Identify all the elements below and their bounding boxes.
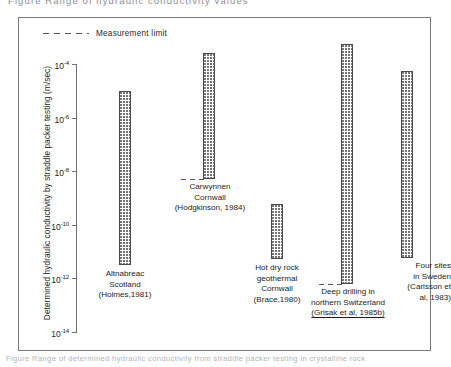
- scan-top-cutoff-text: Figure Range of hydraulic conductivity v…: [0, 0, 450, 9]
- scan-bottom-cutoff-text: Figure Range of determined hydraulic con…: [0, 355, 450, 367]
- measurement-limit-marker-carwynnen: [181, 179, 205, 180]
- y-axis-label: 10-6: [39, 113, 69, 125]
- bar-four-sites-sweden: [401, 71, 413, 258]
- y-axis-tick: [72, 171, 77, 172]
- bar-caption-line: Altnabreac: [77, 269, 173, 280]
- scan-top-cutoff-label: Figure Range of hydraulic conductivity v…: [8, 0, 249, 6]
- y-axis-title: Determined hydraulic conductivity by str…: [42, 61, 52, 325]
- bar-caption-carwynnen-cornwall: Carwynnen Cornwall (Hodgkinson, 1984): [155, 182, 265, 214]
- bar-caption-line: in Sweden: [363, 272, 451, 283]
- bar-caption-line: Four sites: [363, 261, 451, 272]
- y-axis-label: 10-12: [39, 273, 69, 285]
- bar-caption-line: Carwynnen: [155, 182, 265, 193]
- y-axis-exponent: -14: [61, 327, 69, 334]
- bar-caption-line: (Holmes,1981): [77, 290, 173, 301]
- y-axis-label: 10-10: [39, 220, 69, 232]
- measurement-limit-marker-deep-drilling: [319, 284, 343, 285]
- bar-caption-line: Hot dry rock: [231, 263, 323, 274]
- y-axis-exponent: -10: [61, 220, 69, 227]
- bar-caption-line: geothermal: [231, 274, 323, 285]
- scan-bottom-cutoff-label: Figure Range of determined hydraulic con…: [6, 355, 365, 363]
- bar-caption-line: (Carlsson et: [363, 282, 451, 293]
- bar-caption-line: Cornwall: [155, 193, 265, 204]
- bar-altnabreac-scotland: [119, 91, 131, 265]
- bar-caption-altnabreac-scotland: Altnabreac Scotland (Holmes,1981): [77, 269, 173, 301]
- y-axis-tick: [72, 118, 77, 119]
- bar-hot-dry-rock-cornwall: [271, 204, 283, 259]
- y-axis-label: 10-4: [39, 59, 69, 71]
- y-axis-exponent: -4: [64, 59, 69, 66]
- y-axis-tick: [72, 332, 77, 333]
- y-axis-label: 10-14: [39, 327, 69, 339]
- bar-caption-line: (Hodgkinson, 1984): [155, 203, 265, 214]
- y-axis-exponent: -6: [64, 113, 69, 120]
- figure-frame: Measurement limit Determined hydraulic c…: [18, 17, 431, 351]
- bar-caption-line: Scotland: [77, 280, 173, 291]
- y-axis-tick: [72, 225, 77, 226]
- y-axis-label: 10-8: [39, 166, 69, 178]
- y-axis-exponent: -12: [61, 273, 69, 280]
- bar-caption-line: al, 1983): [363, 293, 451, 304]
- y-axis-exponent: -8: [64, 166, 69, 173]
- bar-deep-drilling-switzerland: [341, 44, 353, 284]
- plot-area: Determined hydraulic conductivity by str…: [19, 18, 432, 352]
- bar-caption-line: (Grisak et al, 1985b): [281, 308, 415, 319]
- bar-carwynnen-cornwall: [203, 53, 215, 179]
- y-axis-tick: [72, 64, 77, 65]
- bar-caption-four-sites-sweden: Four sites in Sweden (Carlsson et al, 19…: [363, 261, 451, 303]
